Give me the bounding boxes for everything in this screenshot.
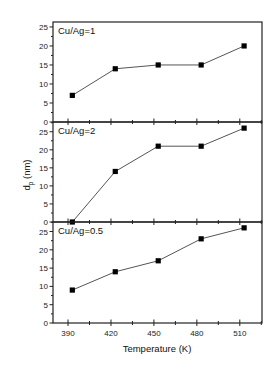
panel-1: 0510152025Cu/Ag=1 (39, 22, 262, 127)
chart-panels: 0510152025Cu/Ag=10510152025Cu/Ag=2051015… (39, 22, 262, 328)
series-line (72, 128, 244, 222)
y-tick-label: 15 (39, 61, 48, 70)
y-tick-label: 0 (44, 218, 49, 227)
panel-frame (53, 222, 262, 323)
panel-3: 0510152025Cu/Ag=0.5 (39, 222, 262, 328)
data-point-marker (242, 225, 247, 230)
panel-frame (53, 22, 262, 122)
x-tick-label: 510 (233, 329, 247, 338)
y-tick-label: 10 (39, 80, 48, 89)
y-tick-label: 20 (39, 246, 48, 255)
y-tick-label: 20 (39, 42, 48, 51)
panel-label: Cu/Ag=1 (58, 25, 95, 36)
data-point-marker (199, 62, 204, 67)
x-tick-label: 480 (190, 329, 204, 338)
y-tick-label: 0 (44, 319, 49, 328)
panel-label: Cu/Ag=2 (58, 125, 95, 136)
stacked-line-chart: 0510152025Cu/Ag=10510152025Cu/Ag=2051015… (0, 0, 275, 370)
data-point-marker (156, 144, 161, 149)
x-axis-title: Temperature (K) (123, 343, 192, 354)
y-tick-label: 15 (39, 164, 48, 173)
data-point-marker (113, 169, 118, 174)
series-line (72, 46, 244, 95)
y-axis-title: dp (nm) (21, 159, 35, 190)
y-tick-label: 0 (44, 118, 49, 127)
panel-2: 0510152025Cu/Ag=2 (39, 122, 262, 227)
data-point-marker (156, 62, 161, 67)
data-point-marker (70, 287, 75, 292)
x-tick-label: 420 (104, 329, 118, 338)
data-point-marker (113, 66, 118, 71)
y-tick-label: 5 (44, 301, 49, 310)
data-point-marker (70, 93, 75, 98)
y-tick-label: 25 (39, 228, 48, 237)
data-point-marker (199, 144, 204, 149)
data-point-marker (242, 43, 247, 48)
y-axis-title-unit: (nm) (21, 159, 32, 181)
data-point-marker (199, 236, 204, 241)
data-point-marker (242, 126, 247, 131)
y-tick-label: 25 (39, 128, 48, 137)
panel-frame (53, 122, 262, 222)
x-tick-label: 390 (61, 329, 75, 338)
y-tick-label: 25 (39, 23, 48, 32)
y-tick-label: 10 (39, 182, 48, 191)
x-axis: 390420450480510 (61, 329, 247, 338)
data-point-marker (113, 269, 118, 274)
y-tick-label: 20 (39, 146, 48, 155)
y-tick-label: 10 (39, 282, 48, 291)
y-tick-label: 5 (44, 200, 49, 209)
y-tick-label: 5 (44, 99, 49, 108)
panel-label: Cu/Ag=0.5 (58, 225, 103, 236)
y-tick-label: 15 (39, 264, 48, 273)
data-point-marker (156, 258, 161, 263)
x-tick-label: 450 (147, 329, 161, 338)
